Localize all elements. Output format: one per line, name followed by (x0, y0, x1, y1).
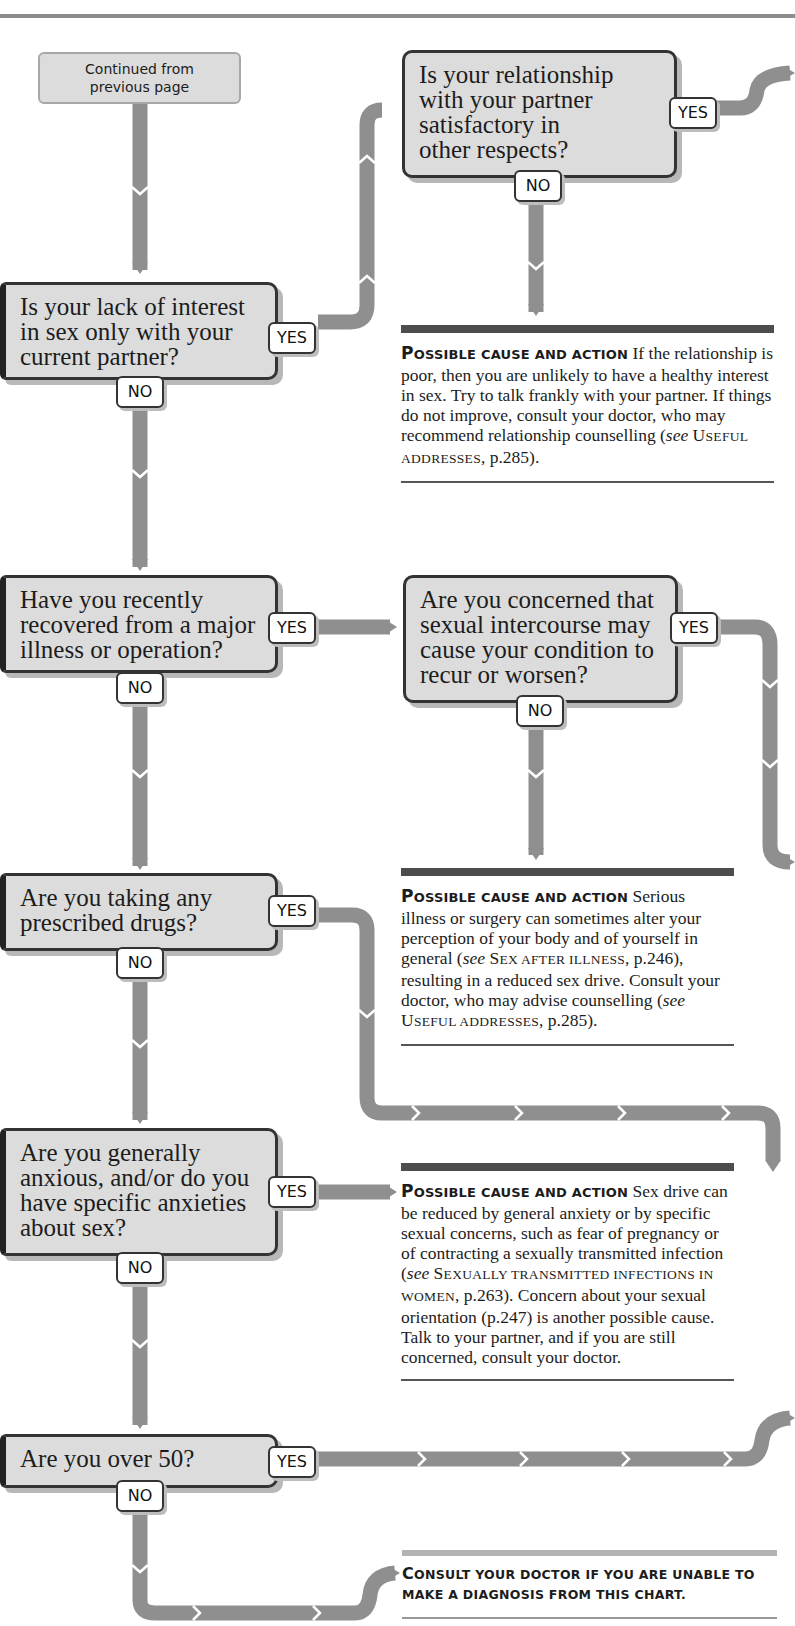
possible-cause-illness: POSSIBLE CAUSE AND ACTION Serious illnes… (401, 868, 734, 1046)
yes-label: YES (268, 1446, 316, 1478)
no-label: NO (116, 1252, 164, 1284)
flow-connectors (0, 0, 795, 1626)
possible-cause-relationship: POSSIBLE CAUSE AND ACTION If the relatio… (401, 325, 774, 483)
no-label: NO (116, 947, 164, 979)
no-label: NO (116, 1480, 164, 1512)
answer-text: POSSIBLE CAUSE AND ACTION Serious illnes… (401, 876, 734, 1046)
answer-rule (401, 1163, 734, 1171)
answer-heading: POSSIBLE CAUSE AND ACTION (401, 347, 628, 362)
question-text: Are you generally anxious, and/or do you… (20, 1140, 275, 1240)
question-anxious-about-sex: Are you generally anxious, and/or do you… (0, 1128, 278, 1256)
final-text: CONSULT YOUR DOCTOR IF YOU ARE UNABLE TO… (402, 1556, 777, 1619)
possible-cause-anxiety: POSSIBLE CAUSE AND ACTION Sex drive can … (401, 1163, 734, 1381)
question-text: Are you over 50? (20, 1446, 275, 1471)
answer-heading: POSSIBLE CAUSE AND ACTION (401, 890, 628, 905)
answer-rule (401, 868, 734, 876)
answer-text: POSSIBLE CAUSE AND ACTION If the relatio… (401, 333, 774, 483)
question-prescribed-drugs: Are you taking any prescribed drugs? (0, 873, 278, 951)
yes-label: YES (670, 612, 718, 644)
yes-label: YES (268, 1176, 316, 1208)
consult-doctor-note: CONSULT YOUR DOCTOR IF YOU ARE UNABLE TO… (402, 1550, 777, 1619)
no-label: NO (516, 695, 564, 727)
yes-label: YES (669, 97, 717, 129)
question-text: Is your lack of interest in sex only wit… (20, 294, 275, 369)
question-lack-of-interest-partner: Is your lack of interest in sex only wit… (0, 282, 278, 380)
question-text: Are you taking any prescribed drugs? (20, 885, 275, 935)
connector-q2b-yes (708, 627, 790, 862)
question-recovered-illness: Have you recently recovered from a major… (0, 575, 278, 673)
no-label: NO (116, 672, 164, 704)
question-text: Is your relationship with your partner s… (419, 62, 674, 162)
question-text: Have you recently recovered from a major… (20, 587, 275, 662)
answer-rule (401, 325, 774, 333)
question-concerned-recur: Are you concerned that sexual intercours… (403, 575, 678, 703)
yes-label: YES (268, 895, 316, 927)
answer-text: POSSIBLE CAUSE AND ACTION Sex drive can … (401, 1171, 734, 1381)
no-label: NO (116, 376, 164, 408)
connector-q5-yes (318, 1418, 790, 1459)
answer-heading: POSSIBLE CAUSE AND ACTION (401, 1185, 628, 1200)
question-relationship-satisfactory: Is your relationship with your partner s… (402, 50, 677, 178)
no-label: NO (514, 170, 562, 202)
continued-from-previous-page: Continued from previous page (38, 52, 241, 104)
connector-q1-yes (318, 110, 382, 322)
connector-q5-no (140, 1508, 395, 1613)
question-text: Are you concerned that sexual intercours… (420, 587, 675, 687)
yes-label: YES (268, 322, 316, 354)
yes-label: YES (268, 612, 316, 644)
